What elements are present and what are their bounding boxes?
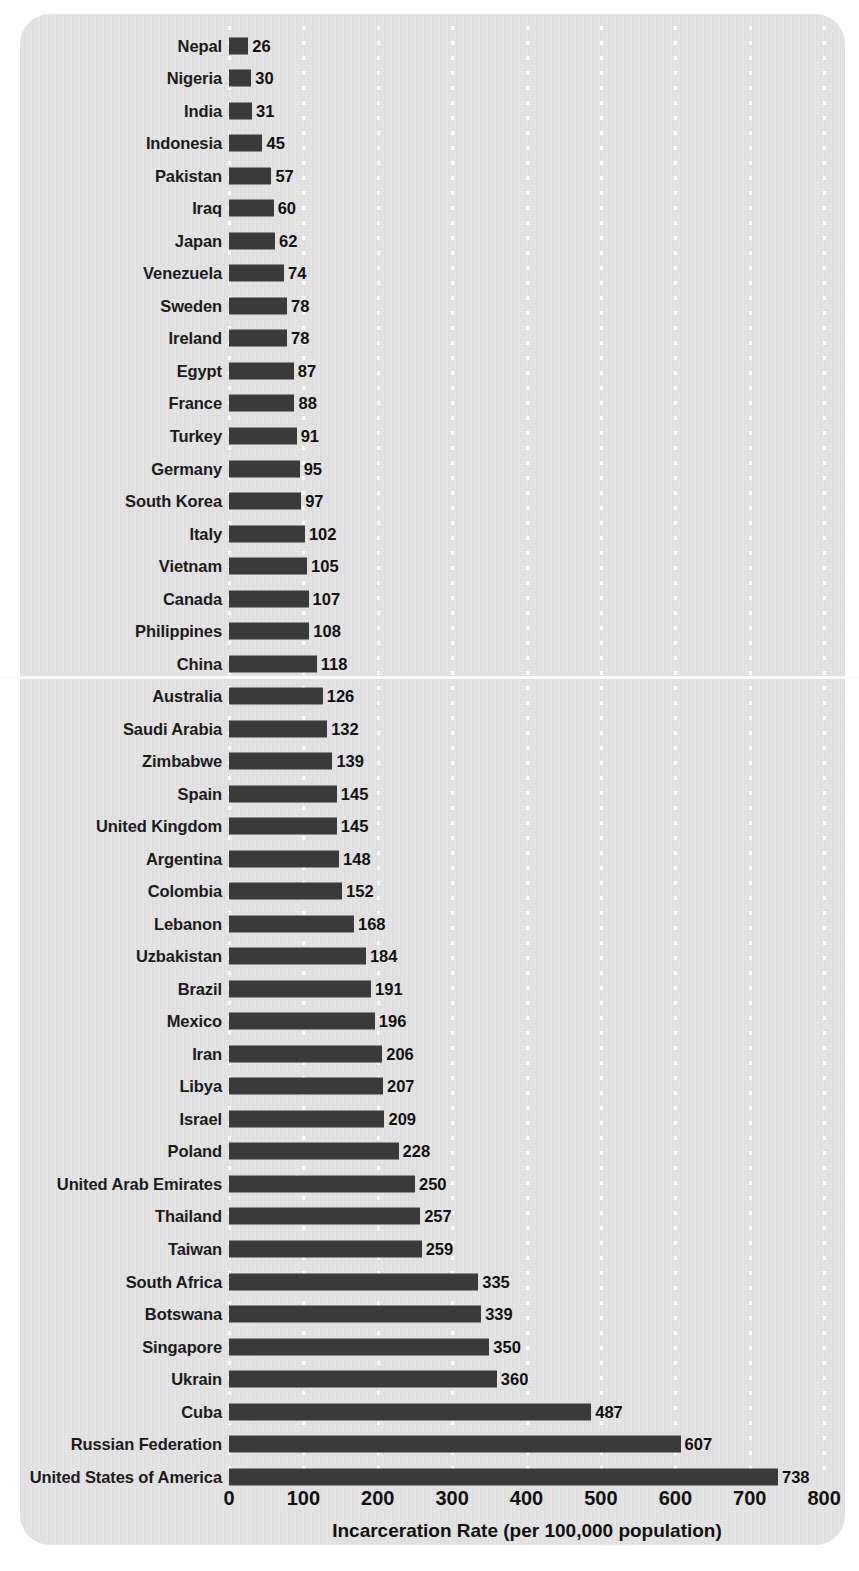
bar [229, 558, 307, 575]
bar-row: Brazil191 [0, 973, 859, 1006]
bar-value-label: 118 [317, 654, 348, 673]
bar-row: Australia126 [0, 680, 859, 713]
bar-row: Nepal26 [0, 30, 859, 63]
bar-row: Taiwan259 [0, 1233, 859, 1266]
x-tick-600: 600 [659, 1487, 692, 1510]
bar-value-label: 191 [371, 979, 403, 998]
bar-category-label: Lebanon [154, 914, 222, 933]
bar [229, 200, 274, 217]
x-tick-200: 200 [361, 1487, 394, 1510]
bar-value-label: 88 [294, 394, 316, 413]
bar [229, 818, 337, 835]
bar [229, 785, 337, 802]
bar-category-label: Colombia [148, 882, 222, 901]
bar-value-label: 97 [301, 492, 323, 511]
bar-category-label: Nepal [178, 36, 222, 55]
bar-value-label: 78 [287, 329, 309, 348]
bar-row: Japan62 [0, 225, 859, 258]
bar-row: Zimbabwe139 [0, 745, 859, 778]
bar [229, 1436, 681, 1453]
bar-value-label: 168 [354, 914, 386, 933]
bar-value-label: 31 [252, 101, 274, 120]
bar-value-label: 350 [489, 1337, 521, 1356]
bar [229, 70, 251, 87]
bar-row: India31 [0, 95, 859, 128]
bar-value-label: 607 [681, 1435, 713, 1454]
bar-value-label: 91 [297, 426, 319, 445]
bar-value-label: 487 [591, 1402, 623, 1421]
bar [229, 948, 366, 965]
bar-category-label: Cuba [181, 1402, 222, 1421]
bar-category-label: Thailand [155, 1207, 222, 1226]
bar-category-label: China [177, 654, 222, 673]
bar-row: Botswana339 [0, 1298, 859, 1331]
bar-category-label: Germany [151, 459, 222, 478]
bar [229, 623, 309, 640]
bar [229, 1306, 481, 1323]
bar-category-label: India [184, 101, 222, 120]
bar [229, 37, 248, 54]
x-tick-500: 500 [584, 1487, 617, 1510]
bar-category-label: South Korea [125, 492, 222, 511]
bar-category-label: Argentina [146, 849, 222, 868]
bar-value-label: 152 [342, 882, 374, 901]
bar [229, 102, 252, 119]
bar [229, 720, 327, 737]
bar [229, 1208, 420, 1225]
x-axis-title: Incarceration Rate (per 100,000 populati… [229, 1520, 825, 1542]
bar-category-label: Brazil [178, 979, 222, 998]
bar-value-label: 207 [383, 1077, 415, 1096]
x-tick-700: 700 [733, 1487, 766, 1510]
bar [229, 590, 309, 607]
bar-row: South Korea97 [0, 485, 859, 518]
bar-value-label: 259 [422, 1239, 454, 1258]
bar-value-label: 45 [262, 134, 284, 153]
bar-row: United Kingdom145 [0, 810, 859, 843]
bar-category-label: Mexico [167, 1012, 222, 1031]
bar-category-label: Pakistan [155, 166, 222, 185]
bar [229, 883, 342, 900]
bar-category-label: Israel [179, 1109, 222, 1128]
bar-category-label: Iran [192, 1044, 222, 1063]
bar-row: Indonesia45 [0, 127, 859, 160]
bar-value-label: 196 [375, 1012, 407, 1031]
bar [229, 1078, 383, 1095]
x-tick-300: 300 [435, 1487, 468, 1510]
bar-row: Philippines108 [0, 615, 859, 648]
bar-row: Ireland78 [0, 322, 859, 355]
bar-value-label: 228 [399, 1142, 431, 1161]
bar [229, 525, 305, 542]
bar-value-label: 62 [275, 231, 297, 250]
bar-value-label: 105 [307, 557, 339, 576]
bar-row: South Africa335 [0, 1265, 859, 1298]
bar-value-label: 145 [337, 817, 369, 836]
bar-value-label: 26 [248, 36, 270, 55]
bar-category-label: Uzbakistan [136, 947, 222, 966]
bar-category-label: Botswana [145, 1305, 222, 1324]
bar-category-label: Iraq [192, 199, 222, 218]
bar [229, 1338, 489, 1355]
bar-row: Sweden78 [0, 290, 859, 323]
bar-row: Libya207 [0, 1070, 859, 1103]
bar-row: Venezuela74 [0, 257, 859, 290]
bar [229, 915, 354, 932]
bar-row: Uzbakistan184 [0, 940, 859, 973]
bar [229, 1045, 382, 1062]
x-axis-tick-labels: 0100200300400500600700800 [0, 1487, 859, 1513]
bar-row: Spain145 [0, 777, 859, 810]
bar-row: Argentina148 [0, 843, 859, 876]
bar-category-label: United States of America [30, 1467, 222, 1486]
x-tick-400: 400 [510, 1487, 543, 1510]
bar [229, 1175, 415, 1192]
x-tick-0: 0 [223, 1487, 234, 1510]
bar [229, 1403, 591, 1420]
bar [229, 1143, 399, 1160]
bar-row: Lebanon168 [0, 908, 859, 941]
bar-value-label: 139 [332, 752, 364, 771]
bar-category-label: Turkey [170, 426, 222, 445]
bar-row: Thailand257 [0, 1200, 859, 1233]
scan-seam [0, 676, 859, 679]
bar [229, 460, 300, 477]
bar-row: Pakistan57 [0, 160, 859, 193]
bar-value-label: 78 [287, 296, 309, 315]
